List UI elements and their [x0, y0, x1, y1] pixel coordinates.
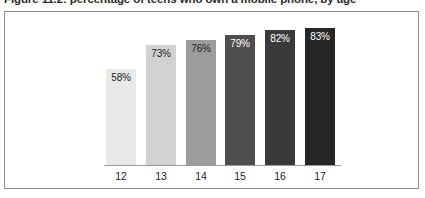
bar-chart-plot-area: 58% 73% 76% 79% 82% [106, 20, 337, 165]
figure-container: Figure 11.2: percentage of teens who own… [0, 0, 425, 198]
bar-14[interactable]: 76% [186, 40, 216, 165]
bar-slot-15: 79% [225, 20, 255, 165]
bar-12[interactable]: 58% [106, 69, 136, 165]
x-tick-label-12: 12 [106, 170, 136, 183]
bar-slot-16: 82% [265, 20, 295, 165]
x-tick-label-14: 14 [186, 170, 216, 183]
bar-15[interactable]: 79% [225, 35, 255, 165]
bar-value-17: 83% [305, 31, 335, 42]
bar-17[interactable]: 83% [305, 28, 335, 165]
x-tick-label-13: 13 [146, 170, 176, 183]
x-tick-label-17: 17 [305, 170, 335, 183]
bar-slot-14: 76% [186, 20, 216, 165]
bar-13[interactable]: 73% [146, 45, 176, 165]
bar-value-13: 73% [146, 48, 176, 59]
bar-slot-13: 73% [146, 20, 176, 165]
bar-value-16: 82% [265, 33, 295, 44]
bar-value-12: 58% [106, 72, 136, 83]
bar-value-15: 79% [225, 38, 255, 49]
figure-caption: Figure 11.2: percentage of teens who own… [4, 0, 421, 6]
x-axis-line [104, 165, 341, 166]
bar-slot-17: 83% [305, 20, 335, 165]
bar-16[interactable]: 82% [265, 30, 295, 165]
x-tick-label-16: 16 [265, 170, 295, 183]
bar-value-14: 76% [186, 43, 216, 54]
x-tick-label-15: 15 [225, 170, 255, 183]
chart-frame: 58% 73% 76% 79% 82% [4, 11, 419, 189]
bar-slot-12: 58% [106, 20, 136, 165]
